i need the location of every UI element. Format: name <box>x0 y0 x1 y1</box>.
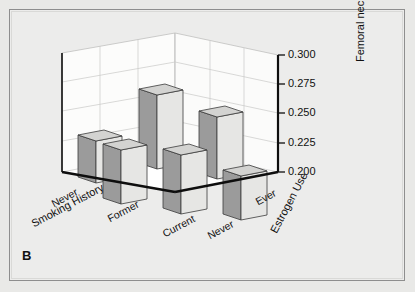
y-axis-title-text: Femoral neck BMD, g/cm <box>354 0 366 62</box>
bar-former-never <box>163 144 207 214</box>
y-axis-title: Femoral neck BMD, g/cm2 <box>352 0 366 62</box>
y-tick-label-0300: 0.300 <box>288 48 316 60</box>
panel-letter: B <box>22 248 32 263</box>
figure-panel: 0.300 0.275 0.250 0.225 0.200 Femoral ne… <box>0 0 415 292</box>
y-tick-label-0275: 0.275 <box>288 77 316 89</box>
y-tick-label-0225: 0.225 <box>288 136 316 148</box>
y-tick-label-0250: 0.250 <box>288 106 316 118</box>
bar-never-never <box>103 139 147 204</box>
